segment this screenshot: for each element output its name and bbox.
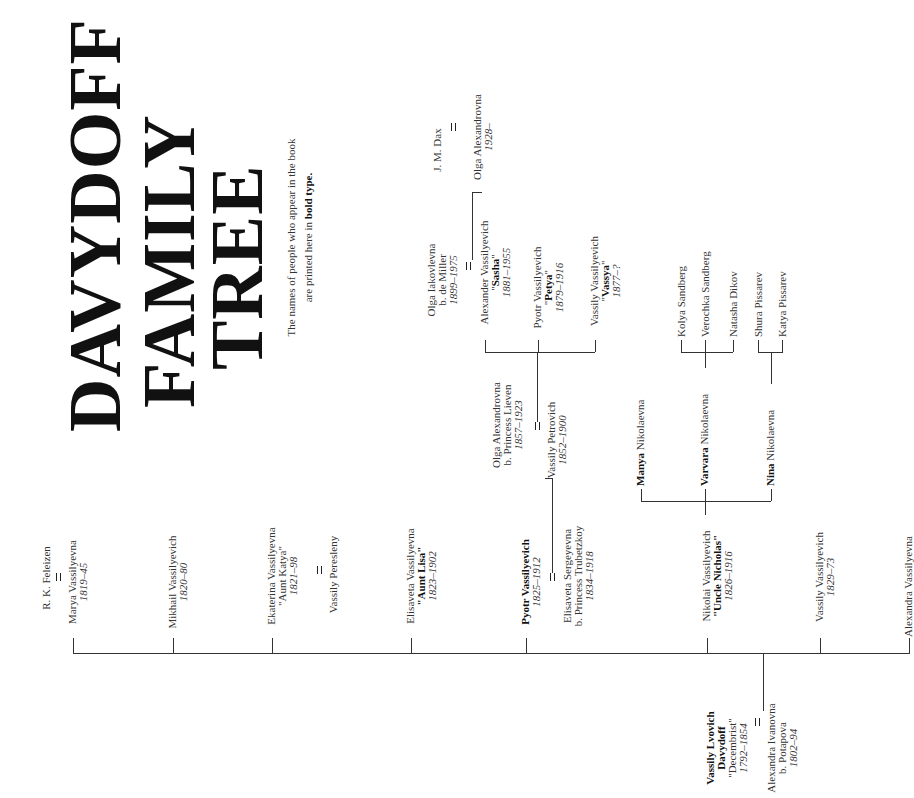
person-marya-feleizen-spouse: R. K. Feleizen <box>41 523 52 633</box>
person-varvara: Varvara Nikolaevna <box>699 366 710 486</box>
marriage-sign <box>535 422 540 430</box>
nina-children-bracket <box>758 352 783 353</box>
nina-children-link <box>771 352 772 384</box>
person-ekaterina-spouse: Vassily Peresleny <box>328 532 339 617</box>
tick-pyotr <box>526 638 527 653</box>
marriage-sign <box>317 566 322 574</box>
founder-husband: Vassily Lvovich Davydoff "Decembrist" 17… <box>705 698 749 798</box>
tick-nina <box>771 489 772 501</box>
title-line-1: DAVYDOFF <box>58 18 132 432</box>
marriage-sign <box>550 573 555 581</box>
tick-alexandra <box>909 638 910 653</box>
title-line-3: TREE <box>200 164 274 370</box>
nikolai-children-link <box>705 501 706 515</box>
person-olga-1928: Olga Alexandrovna 1928– <box>472 82 494 192</box>
tick-shura <box>758 340 759 352</box>
person-vassily-vassilyevich: Vassily Vassilyevich 1829–73 <box>814 517 836 637</box>
pyotr-spouse-link <box>552 478 553 573</box>
person-marya: Marya Vassilyevna 1819–45 <box>67 527 89 637</box>
person-pyotr-spouse: Elisaveta Sergeyevna b. Princess Trubetz… <box>562 515 595 637</box>
tick-natasha <box>733 340 734 352</box>
founder-wife: Alexandra Ivanovna b. Potapova 1802–94 <box>766 698 799 798</box>
legend-note: The names of people who appear in the bo… <box>283 110 317 365</box>
person-mikhail: Mikhail Vassilyevich 1820–80 <box>167 527 189 637</box>
person-shura: Shura Pissarev <box>753 237 764 337</box>
vassily-petrovich-children-link <box>537 352 538 422</box>
person-pyotr: Pyotr Vassilyevich 1825–1912 <box>520 527 542 637</box>
person-nina: Nina Nikolaevna <box>765 386 776 486</box>
person-dax: J. M. Dax <box>432 120 443 180</box>
legend-line-1: The names of people who appear in the bo… <box>283 110 300 365</box>
marriage-sign <box>451 123 456 131</box>
tick-vassya <box>595 340 596 352</box>
person-ekaterina: Ekaterina Vassilyevna "Aunt Katya" 1821–… <box>266 515 299 637</box>
person-olga-iakovlevna: Olga Iakovlevna b. de Miller 1899–1975 <box>426 240 459 320</box>
tick-vassily <box>820 638 821 653</box>
person-nikolai: Nikolai Vassilyevich "Uncle Nicholas" 18… <box>701 515 734 637</box>
tick-manya <box>641 489 642 501</box>
legend-line-2: are printed here in bold type. <box>300 110 317 365</box>
tick-mikhail <box>173 638 174 653</box>
founders-connector <box>763 653 764 711</box>
marriage-sign <box>466 262 471 270</box>
person-petya: Pyotr Vassilyevich "Petya" 1879–1916 <box>532 235 565 340</box>
main-spine <box>73 653 910 654</box>
person-vassily-petrovich: Vassily Petrovich 1852–1900 <box>546 395 568 485</box>
legend-bold: bold type. <box>302 173 314 219</box>
marriage-sign <box>56 573 61 581</box>
person-elisaveta: Elisaveta Vassilyevna "Aunt Lisa" 1823–1… <box>405 515 438 637</box>
tick-nikolai <box>707 638 708 653</box>
person-kolya: Kolya Sandberg <box>676 237 687 337</box>
grandchildren-bracket <box>485 352 595 353</box>
varvara-children-link <box>705 352 706 368</box>
tick-verochka <box>705 340 706 352</box>
marriage-sign <box>755 718 760 726</box>
tick-katya-p <box>782 340 783 352</box>
title-line-2: FAMILY <box>132 114 206 408</box>
tick-ekaterina <box>272 638 273 653</box>
person-natasha: Natasha Dikov <box>728 237 739 337</box>
person-olga-lieven: Olga Alexandrovna b. Princess Lieven 185… <box>491 365 524 485</box>
tick-varvara <box>705 489 706 501</box>
person-manya: Manya Nikolaevna <box>635 366 646 486</box>
tick-elisaveta <box>411 638 412 653</box>
tick-kolya <box>681 340 682 352</box>
tick-petya <box>538 340 539 352</box>
person-alexandra: Alexandra Vassilyevna <box>903 517 914 637</box>
person-sasha: Alexander Vassilyevich "Sasha" 1881–1955 <box>479 205 512 340</box>
person-verochka: Verochka Sandberg <box>700 217 711 337</box>
sasha-child-link-h <box>472 192 482 193</box>
sasha-child-link <box>472 192 473 260</box>
tick-marya <box>73 638 74 653</box>
nikolai-daughters-bracket <box>641 501 771 502</box>
tick-alexander <box>485 340 486 352</box>
person-vassya: Vassily Vassilyevich "Vassya" 1877–? <box>589 222 622 340</box>
varvara-children-bracket <box>681 352 733 353</box>
person-katya-pissarev: Katya Pissarev <box>777 237 788 337</box>
